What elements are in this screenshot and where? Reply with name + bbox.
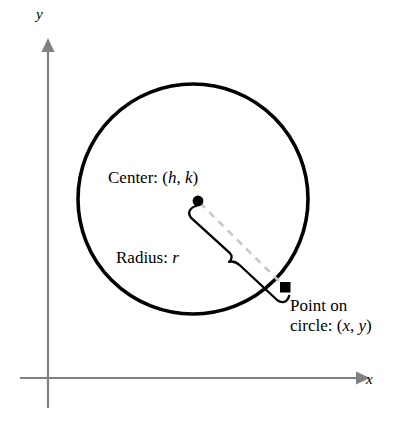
y-axis [42,38,55,408]
center-label-separator: , [176,168,185,187]
center-label-prefix: Center: ( [108,168,168,187]
y-axis-arrowhead-icon [42,38,55,52]
center-point-marker [193,196,204,207]
point-on-circle-label: Point on circle: (x, y) [290,296,372,336]
radius-label-prefix: Radius: [116,248,172,267]
x-axis-label: x [366,371,373,389]
point-label-var-x: x [342,316,350,335]
point-label-suffix: ) [366,316,372,335]
circle-point-marker [280,282,291,293]
center-label: Center: (h, k) [108,168,198,188]
point-label-line2: circle: (x, y) [290,316,372,336]
point-label-var-y: y [358,316,366,335]
radius-label-var-r: r [172,248,179,267]
radius-brace [189,203,289,305]
radius-label: Radius: r [116,248,179,268]
center-label-suffix: ) [193,168,199,187]
y-axis-label: y [36,6,43,24]
circle-diagram: y x Center: (h, k) Radius: r Point on ci… [0,0,393,423]
x-axis [20,372,370,385]
radius-dashed-line [200,203,284,286]
center-label-var-k: k [185,168,193,187]
point-label-line1: Point on [290,296,372,316]
point-label-prefix: circle: ( [290,316,342,335]
diagram-canvas [0,0,393,423]
